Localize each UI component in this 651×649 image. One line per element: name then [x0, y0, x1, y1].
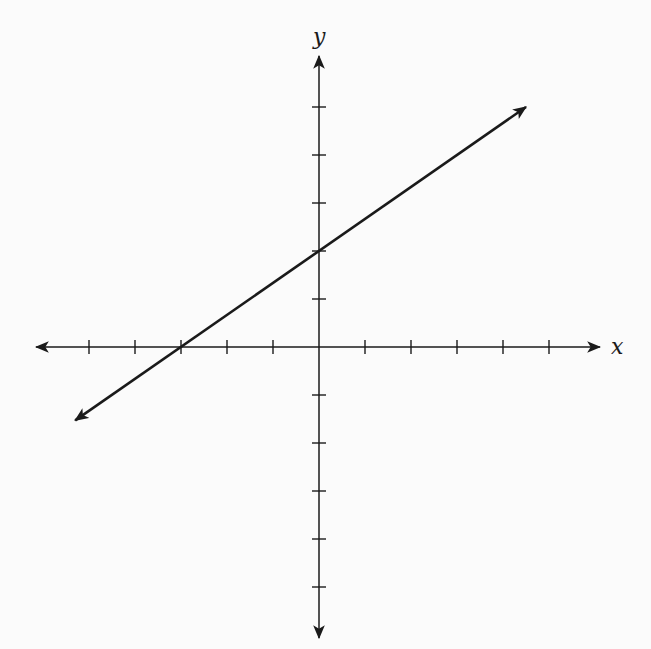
y-axis-label: y [312, 24, 326, 49]
plotted-line [75, 107, 526, 420]
x-axis-label: x [611, 334, 624, 359]
coordinate-plane: x y [0, 0, 651, 649]
